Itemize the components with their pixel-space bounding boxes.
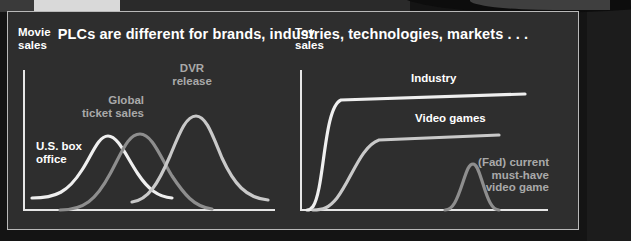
label-video-games-line1: Video games	[415, 112, 486, 125]
axis-title-toy-line1: Toy	[295, 26, 324, 39]
label-global-ticket-sales-line2: ticket sales	[66, 107, 144, 120]
top-mid-strip	[120, 0, 410, 11]
label-us-box-office-line1: U.S. box	[36, 140, 82, 153]
label-us-box-office: U.S. box office	[36, 140, 82, 165]
slide-title: PLCs are different for brands, industrie…	[8, 26, 578, 42]
label-fad-line3: video game	[443, 181, 549, 194]
label-dvr-release: DVR release	[156, 62, 228, 87]
label-fad-line1: (Fad) current	[443, 156, 549, 169]
top-white-strip	[34, 0, 120, 11]
label-global-ticket-sales-line1: Global	[66, 94, 144, 107]
label-fad-line2: must-have	[443, 169, 549, 182]
chart-movie-sales: Movie sales U.S. box office Global ticke…	[16, 60, 288, 225]
axis-title-toy-line2: sales	[295, 39, 324, 52]
label-industry-line1: Industry	[411, 72, 456, 85]
axis-title-movie-sales: Movie sales	[18, 26, 51, 51]
curve-dvr-release	[132, 116, 268, 202]
label-us-box-office-line2: office	[36, 153, 82, 166]
label-video-games: Video games	[415, 112, 486, 125]
slide-panel: PLCs are different for brands, industrie…	[7, 11, 579, 230]
label-global-ticket-sales: Global ticket sales	[66, 94, 144, 119]
label-fad-current-must-have-video-game: (Fad) current must-have video game	[443, 156, 549, 194]
axis-title-movie-line1: Movie	[18, 26, 51, 39]
label-industry: Industry	[411, 72, 456, 85]
chart-toy-sales: Toy sales Industry Video games (Fad) cur…	[293, 60, 571, 225]
label-dvr-release-line2: release	[156, 75, 228, 88]
toy-sales-curves	[293, 60, 571, 225]
axis-title-toy-sales: Toy sales	[295, 26, 324, 51]
axis-title-movie-line2: sales	[18, 39, 51, 52]
label-dvr-release-line1: DVR	[156, 62, 228, 75]
